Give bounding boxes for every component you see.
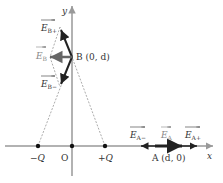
y-axis-label: y — [61, 6, 68, 16]
label-e-a: EA — [160, 127, 173, 141]
x-axis-label: x — [207, 151, 212, 161]
origin-label: O — [61, 153, 68, 163]
point-b-label: B (0, d) — [76, 52, 110, 62]
charge-negative — [36, 144, 40, 148]
label-e-b-plus: EB+ — [40, 20, 57, 34]
svg-text:EB: EB — [35, 51, 48, 62]
charge-negative-label: −Q — [30, 153, 46, 163]
svg-text:EA: EA — [160, 130, 173, 141]
label-e-a-plus: EA+ — [184, 127, 201, 141]
point-a-label: A (d, 0) — [151, 153, 186, 163]
svg-text:EA+: EA+ — [184, 130, 201, 141]
svg-text:EA−: EA− — [129, 130, 146, 141]
label-e-b-minus: EB− — [40, 76, 57, 90]
electric-field-diagram: x y −Q O +Q B (0, d) A (d, 0) EB+ EB EB−… — [0, 0, 223, 183]
origin-point — [70, 144, 74, 148]
vector-e-b-minus — [61, 57, 72, 84]
vector-e-b-plus — [61, 30, 72, 57]
label-e-a-minus: EA− — [129, 127, 146, 141]
charge-positive-label: +Q — [98, 153, 114, 163]
charge-positive — [103, 144, 107, 148]
svg-text:EB−: EB− — [40, 79, 57, 90]
label-e-b: EB — [35, 47, 48, 62]
svg-text:EB+: EB+ — [40, 23, 57, 34]
